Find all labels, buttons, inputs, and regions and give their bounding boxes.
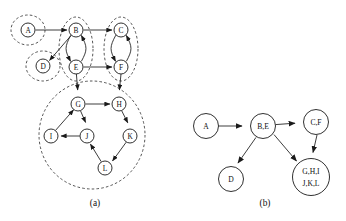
edge-e-to-b [81,35,86,61]
node-h[interactable]: H [112,97,126,111]
node-c[interactable]: C [114,23,128,37]
node-d[interactable]: D [36,59,50,73]
edge-e-to-g [76,74,77,90]
node-b-a-label: A [203,122,209,131]
node-g[interactable]: G [71,97,85,111]
caption-panel-b: (b) [260,198,271,209]
node-b-ghijkl-circle[interactable] [293,159,330,196]
caption-panel-a: (a) [90,198,100,209]
node-l[interactable]: L [98,161,112,175]
node-b-d-label: D [228,175,234,184]
node-b-ghijkl-label-line1: G,H,I [302,167,320,176]
node-b-label: B [74,26,79,35]
node-a-label: A [25,26,31,35]
node-b-be[interactable]: B,E [251,114,276,139]
edge-g-to-j [81,111,86,123]
edge-i-to-g [56,110,74,131]
edge-f-to-c [126,35,131,61]
edge-f-to-h [119,74,121,90]
panel-b: A B,E C,F D G,H,I J,K,L [194,110,330,210]
figure-root: A B C D E [0,0,346,221]
edge-l-to-j [90,144,101,162]
edge-b-be-to-ghijkl [274,135,297,161]
node-b-cf-label: C,F [310,118,321,127]
node-c-label: C [119,26,124,35]
node-b-d[interactable]: D [219,167,244,192]
node-b[interactable]: B [69,23,83,37]
panel-b-nodes: A B,E C,F D G,H,I J,K,L [194,110,330,196]
node-d-label: D [40,62,46,71]
node-b-ghijkl[interactable]: G,H,I J,K,L [293,159,330,196]
node-b-cf[interactable]: C,F [304,110,329,135]
node-f-label: F [119,63,123,72]
node-e[interactable]: E [69,60,83,74]
edge-b-to-e [66,35,71,61]
node-h-label: H [116,100,122,109]
node-g-label: G [75,100,81,109]
node-k-label: K [127,132,133,141]
node-b-a[interactable]: A [194,114,219,139]
node-l-label: L [103,164,108,173]
node-j[interactable]: J [80,129,94,143]
node-i[interactable]: I [44,129,58,143]
figure-canvas: A B C D E [0,0,346,221]
node-k[interactable]: K [123,129,137,143]
edge-k-to-l [113,142,127,161]
edge-h-to-k [122,111,128,123]
node-a[interactable]: A [21,23,35,37]
node-b-ghijkl-label-line2: J,K,L [303,179,320,188]
panel-a-nodes: A B C D E [21,23,137,175]
node-j-label: J [86,132,89,141]
edge-c-to-f [111,35,116,61]
edge-b-be-to-cf [275,123,295,124]
panel-a: A B C D E [11,15,145,209]
edge-b-cf-to-ghijkl [313,135,317,153]
edge-b-be-to-d [238,137,256,163]
node-f[interactable]: F [114,60,128,74]
node-e-label: E [74,63,79,72]
node-b-be-label: B,E [257,122,269,131]
